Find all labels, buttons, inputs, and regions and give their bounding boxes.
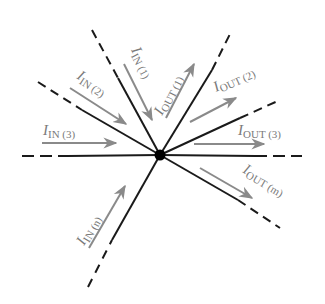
wire-in-1-dashed	[92, 30, 118, 78]
wire-out-m-solid	[160, 155, 238, 200]
label-out-1: IOUT (1)	[150, 71, 187, 119]
wire-in-3-solid	[68, 155, 160, 156]
label-out-3: IOUT (3)	[237, 122, 281, 141]
wire-out-3-solid	[160, 155, 255, 156]
label-in-2: IIN (2)	[72, 67, 110, 101]
wire-out-1-dashed	[212, 30, 232, 70]
label-out-2: IOUT (2)	[210, 62, 258, 98]
wire-out-2-dashed	[240, 100, 280, 118]
diagram-svg: IIN (1) IIN (2) IIN (3) IIN (n) IOUT (1)…	[0, 0, 325, 304]
wire-out-m-dashed	[238, 200, 280, 228]
label-in-n: IIN (n)	[72, 211, 105, 250]
junction-node	[155, 150, 166, 161]
junction-diagram: IIN (1) IIN (2) IIN (3) IIN (n) IOUT (1)…	[0, 0, 325, 304]
label-in-3: IIN (3)	[42, 122, 76, 141]
arrow-out-2	[190, 98, 236, 122]
wire-in-n-dashed	[88, 240, 112, 287]
wire-in-2-dashed	[38, 82, 82, 110]
